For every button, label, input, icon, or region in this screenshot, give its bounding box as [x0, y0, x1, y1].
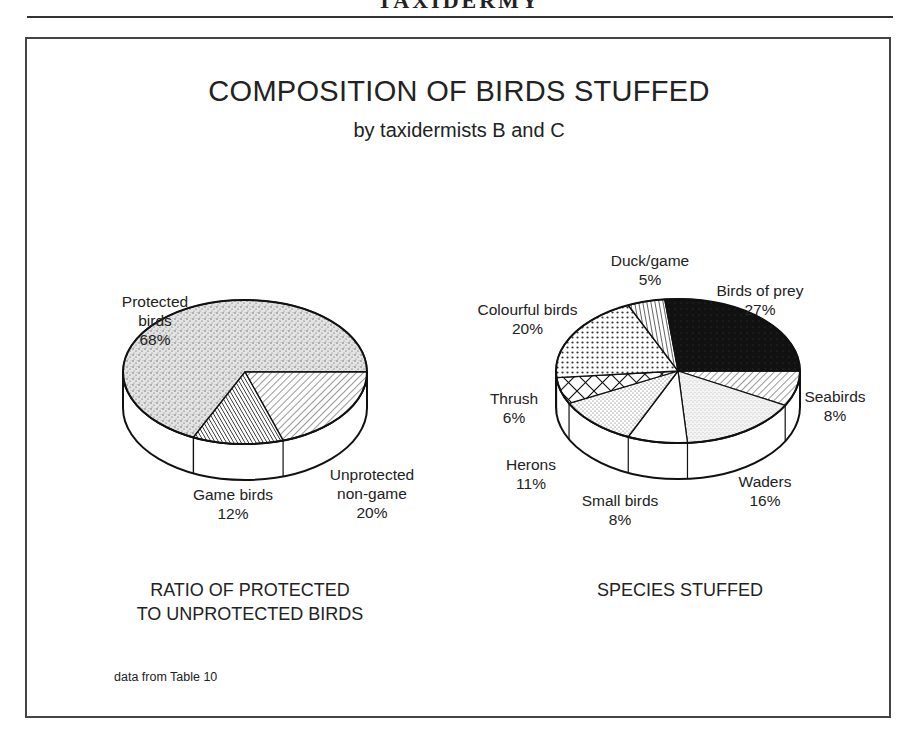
right-pie — [556, 299, 800, 479]
label-birds-of-prey: Birds of prey 27% — [690, 281, 830, 319]
label-small-birds: Small birds 8% — [565, 491, 675, 529]
label-colourful-birds: Colourful birds 20% — [465, 300, 590, 338]
label-herons: Herons 11% — [491, 455, 571, 493]
source-note: data from Table 10 — [114, 670, 217, 684]
label-protected-birds: Protected birds 68% — [100, 292, 210, 349]
label-unprotected-non-game: Unprotected non-game 20% — [312, 465, 432, 522]
label-thrush: Thrush 6% — [474, 389, 554, 427]
label-duck-game: Duck/game 5% — [600, 251, 700, 289]
label-waders: Waders 16% — [725, 472, 805, 510]
label-game-birds: Game birds 12% — [178, 485, 288, 523]
pie-charts-graphic — [0, 0, 918, 746]
label-seabirds: Seabirds 8% — [795, 387, 875, 425]
left-chart-caption: RATIO OF PROTECTED TO UNPROTECTED BIRDS — [100, 578, 400, 626]
right-chart-caption: SPECIES STUFFED — [555, 578, 805, 602]
